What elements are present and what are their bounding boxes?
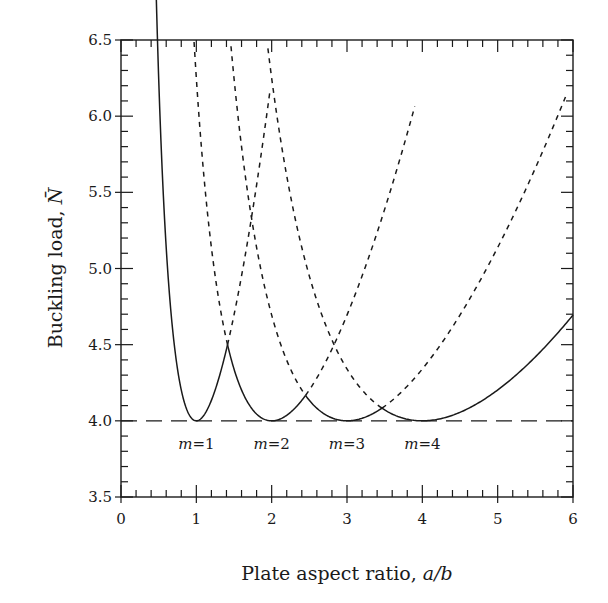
curve-m=1-dashed (228, 89, 271, 344)
y-axis-title: Buckling load, N̄ (44, 186, 66, 348)
x-axis-title: Plate aspect ratio, a/b (241, 562, 452, 584)
y-tick-label: 6.5 (88, 31, 112, 49)
plot-frame (121, 40, 573, 497)
y-tick-label: 6.0 (88, 107, 112, 125)
curve-m=2-dashed (305, 106, 414, 395)
mode-label-m=4: m=4 (404, 435, 440, 453)
mode-label-m=3: m=3 (329, 435, 365, 453)
axes-frame (121, 40, 573, 497)
x-tick-label: 4 (418, 510, 428, 528)
x-tick-label: 5 (493, 510, 503, 528)
x-tick-label: 6 (568, 510, 578, 528)
x-tick-label: 0 (116, 510, 126, 528)
axis-ticks: 01234563.54.04.55.05.56.06.5 (88, 31, 578, 528)
buckling-chart: 01234563.54.04.55.05.56.06.5 m=1m=2m=3m=… (0, 0, 608, 603)
mode-label-m=1: m=1 (178, 435, 214, 453)
x-tick-label: 2 (267, 510, 277, 528)
y-tick-label: 3.5 (88, 488, 112, 506)
curve-m=1-solid (155, 0, 228, 421)
curve-m=3-dashed (231, 46, 305, 395)
y-tick-label: 5.0 (88, 260, 112, 278)
y-tick-label: 4.5 (88, 336, 112, 354)
curve-m=2-solid (228, 345, 306, 421)
x-tick-label: 3 (342, 510, 352, 528)
mode-label-m=2: m=2 (253, 435, 289, 453)
y-tick-label: 5.5 (88, 183, 112, 201)
curve-m=2-dashed (194, 42, 227, 345)
buckling-curves (155, 0, 573, 421)
curve-m=4-solid (382, 315, 573, 421)
mode-labels: m=1m=2m=3m=4 (178, 435, 440, 453)
curve-m=3-dashed (382, 97, 566, 408)
x-tick-label: 1 (192, 510, 202, 528)
y-tick-label: 4.0 (88, 412, 112, 430)
